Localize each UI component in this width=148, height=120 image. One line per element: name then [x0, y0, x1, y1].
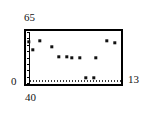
data-point: [57, 55, 60, 58]
data-point: [27, 40, 30, 43]
data-point: [38, 39, 41, 42]
data-point: [92, 76, 95, 79]
data-point: [31, 48, 34, 51]
data-point: [84, 76, 87, 79]
y-axis-tick: [27, 83, 30, 84]
data-point: [78, 56, 81, 59]
x-axis-max-label: 13: [128, 74, 139, 85]
data-point: [65, 55, 68, 58]
data-point: [94, 56, 97, 59]
data-point: [113, 41, 116, 44]
data-point: [70, 56, 73, 59]
x-axis-min-label: 40: [25, 92, 36, 103]
data-point: [105, 39, 108, 42]
data-point: [50, 45, 53, 48]
y-axis-min-label: 0: [11, 76, 17, 87]
x-axis-tick: [120, 80, 121, 82]
y-axis-max-label: 65: [24, 12, 35, 23]
scatter-plot-figure: 65 0 40 13: [0, 0, 148, 120]
